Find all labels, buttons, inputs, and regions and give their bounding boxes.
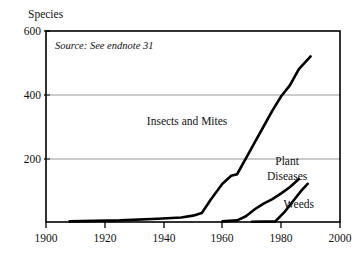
series-label-diseases: Diseases bbox=[267, 170, 308, 182]
x-tick-label-1940: 1940 bbox=[153, 232, 176, 244]
y-tick-label-600: 600 bbox=[24, 25, 42, 37]
series-label-weeds: Weeds bbox=[284, 198, 315, 210]
source-note: Source: See endnote 31 bbox=[55, 40, 153, 51]
x-tick-label-1960: 1960 bbox=[211, 232, 234, 244]
y-axis-title: Species bbox=[28, 8, 64, 21]
x-tick-label-2000: 2000 bbox=[329, 232, 352, 244]
y-tick-label-200: 200 bbox=[24, 153, 42, 165]
chart-figure: Species 600 400 200 1900 1920 1940 1960 … bbox=[0, 0, 364, 261]
series-label-plant: Plant bbox=[275, 155, 299, 167]
series-label-insects-and-mites: Insects and Mites bbox=[147, 115, 228, 127]
x-tick-label-1980: 1980 bbox=[270, 232, 293, 244]
species-resistance-line-chart: Species 600 400 200 1900 1920 1940 1960 … bbox=[0, 0, 364, 261]
x-tick-label-1920: 1920 bbox=[94, 232, 117, 244]
x-tick-label-1900: 1900 bbox=[35, 232, 58, 244]
y-tick-label-400: 400 bbox=[24, 89, 42, 101]
